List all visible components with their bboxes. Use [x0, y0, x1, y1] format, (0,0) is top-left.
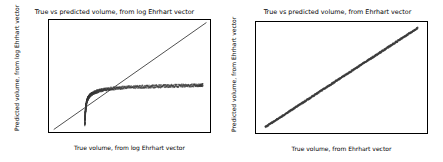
- prediction-scatter-left: [84, 83, 204, 127]
- x-tick-mark: [418, 133, 419, 134]
- y-axis-label-left: Predicted volume, from log Ehrhart vecto…: [13, 5, 20, 131]
- chart-title-left: True vs predicted volume, from log Ehrha…: [10, 8, 219, 16]
- figure-container: True vs predicted volume, from log Ehrha…: [0, 0, 443, 162]
- x-axis-label-right: True volume, from Ehrhart vector: [255, 145, 428, 152]
- x-tick-mark: [387, 133, 388, 134]
- x-tick-mark: [156, 132, 157, 133]
- plot-data-layer-left: [49, 20, 210, 132]
- x-tick-mark: [108, 132, 109, 133]
- chart-title-right: True vs predicted volume, from Ehrhart v…: [237, 8, 438, 16]
- x-tick-mark: [132, 132, 133, 133]
- x-tick-mark: [85, 132, 86, 133]
- plot-data-layer-right: [256, 22, 427, 133]
- prediction-scatter-right: [264, 26, 418, 128]
- chart-panel-left: True vs predicted volume, from log Ehrha…: [0, 0, 221, 162]
- identity-reference-line: [54, 22, 207, 129]
- y-axis-label-right: Predicted volume, from Ehrhart vector: [230, 17, 237, 132]
- plot-area-right: 10000 8000 6000 4000 2000 0 0 2000 4000 …: [255, 21, 428, 134]
- x-tick-mark: [357, 133, 358, 134]
- chart-panel-right: True vs predicted volume, from Ehrhart v…: [221, 0, 442, 162]
- x-tick-mark: [179, 132, 180, 133]
- x-tick-mark: [265, 133, 266, 134]
- x-tick-mark: [326, 133, 327, 134]
- plot-area-left: 10000 8000 6000 4000 2000 0 -2000 -2000 …: [48, 19, 211, 133]
- x-tick-mark: [203, 132, 204, 133]
- x-tick-mark: [61, 132, 62, 133]
- x-tick-mark: [296, 133, 297, 134]
- x-axis-label-left: True volume, from log Ehrhart vector: [48, 144, 211, 151]
